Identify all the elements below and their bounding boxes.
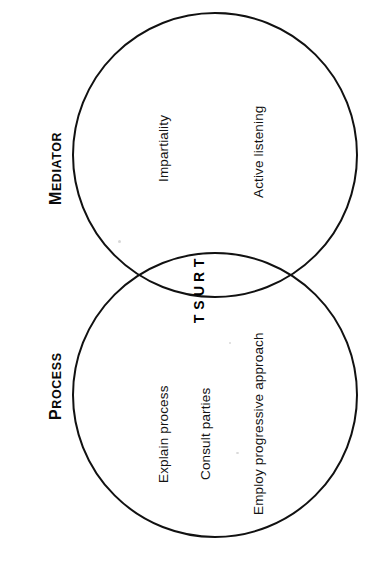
set-label-process: PROCESS [48,352,64,420]
trust-letter-3: U [192,286,206,296]
process-item-employ-progressive-approach: Employ progressive approach [252,332,266,515]
venn-circle-process [72,252,358,538]
set-label-process-rest: ROCESS [50,352,64,408]
trust-letter-1: T [192,259,206,268]
set-label-process-initial: P [47,409,64,420]
trust-letter-2: R [192,272,206,282]
process-item-consult-parties: Consult parties [199,388,213,480]
mediator-item-active-listening: Active listening [252,106,266,198]
intersection-label-trust: TRUST [188,256,210,316]
set-label-mediator: MEDIATOR [48,132,64,205]
trust-letter-5: T [192,315,206,324]
trust-letter-4: S [192,300,206,309]
process-item-explain-process: Explain process [157,385,171,483]
mediator-item-impartiality: Impartiality [157,115,171,182]
set-label-mediator-rest: EDIATOR [50,132,64,191]
venn-diagram: MEDIATOR PROCESS Impartiality Active lis… [0,0,389,568]
set-label-mediator-initial: M [47,191,64,205]
